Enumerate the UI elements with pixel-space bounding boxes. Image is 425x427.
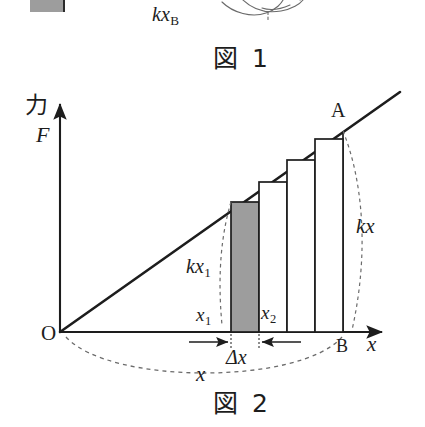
total-x-label: x xyxy=(196,364,205,385)
x2-label: x2 xyxy=(261,303,276,325)
bar-1-shaded xyxy=(231,202,259,332)
figure1-sketch-fragment xyxy=(222,0,308,22)
line-label-kx: kx xyxy=(356,216,375,237)
delta-x-label: Δx xyxy=(226,347,247,367)
y-axis-label-force: 力 xyxy=(25,94,48,117)
y-axis-label-f: F xyxy=(36,124,49,146)
bar1-height-label-kx1: kx1 xyxy=(186,256,211,279)
kx1-dashed-leader xyxy=(220,202,231,325)
point-b-label: B xyxy=(336,337,348,355)
point-a-label: A xyxy=(331,100,345,120)
origin-label: O xyxy=(41,323,56,344)
x-axis-label: x xyxy=(367,334,376,355)
bar-3 xyxy=(287,160,315,332)
bar-4 xyxy=(315,139,343,332)
figure-page: kxB 図 1 xyxy=(0,0,425,427)
x1-label: x1 xyxy=(196,305,211,327)
force-line-kx xyxy=(60,92,400,332)
figure2-caption: 図 2 xyxy=(213,391,271,416)
